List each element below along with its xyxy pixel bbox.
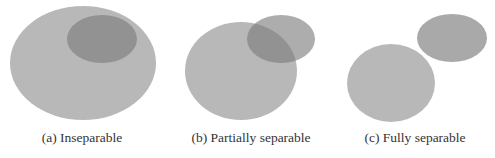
caption-b: (b) Partially separable xyxy=(191,130,310,146)
panel-a xyxy=(10,6,156,120)
large-set-ellipse xyxy=(347,44,435,122)
small-set-ellipse xyxy=(417,14,487,62)
caption-c: (c) Fully separable xyxy=(364,130,465,146)
small-set-ellipse xyxy=(247,15,315,63)
small-set-ellipse xyxy=(67,15,137,63)
panel-c xyxy=(347,14,487,122)
panel-b xyxy=(185,15,315,120)
caption-a: (a) Inseparable xyxy=(42,130,123,146)
